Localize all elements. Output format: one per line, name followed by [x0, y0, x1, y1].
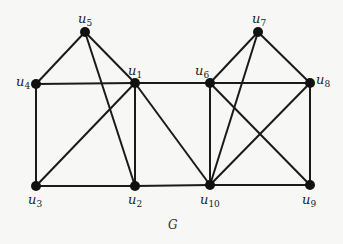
edge-u4-u1 — [36, 83, 135, 84]
vertex-label-u5: u5 — [78, 11, 92, 28]
graph-diagram: u1u2u3u4u5u6u7u8u9u10 G — [0, 0, 343, 244]
vertex-u8 — [305, 78, 315, 88]
vertex-label-u3: u3 — [28, 192, 42, 209]
vertex-label-u9: u9 — [302, 192, 316, 209]
vertex-u9 — [305, 180, 315, 190]
vertex-label-u10: u10 — [200, 192, 220, 209]
edge-u2-u10 — [135, 185, 210, 186]
vertex-u5 — [80, 27, 90, 37]
edge-u1-u10 — [135, 83, 210, 185]
graph-caption: G — [168, 218, 178, 232]
vertex-u2 — [130, 181, 140, 191]
vertex-u4 — [31, 79, 41, 89]
vertex-u3 — [31, 181, 41, 191]
vertices — [31, 27, 315, 191]
edge-u7-u8 — [258, 32, 310, 83]
vertex-u7 — [253, 27, 263, 37]
vertex-label-u1: u1 — [128, 63, 142, 80]
vertex-label-u6: u6 — [195, 63, 209, 80]
vertex-u10 — [205, 180, 215, 190]
vertex-label-u7: u7 — [252, 11, 266, 28]
edges — [36, 32, 310, 186]
vertex-label-u8: u8 — [316, 72, 330, 89]
vertex-label-u4: u4 — [16, 74, 30, 91]
edge-u5-u4 — [36, 32, 85, 84]
vertex-label-u2: u2 — [128, 192, 142, 209]
edge-u1-u3 — [36, 83, 135, 186]
